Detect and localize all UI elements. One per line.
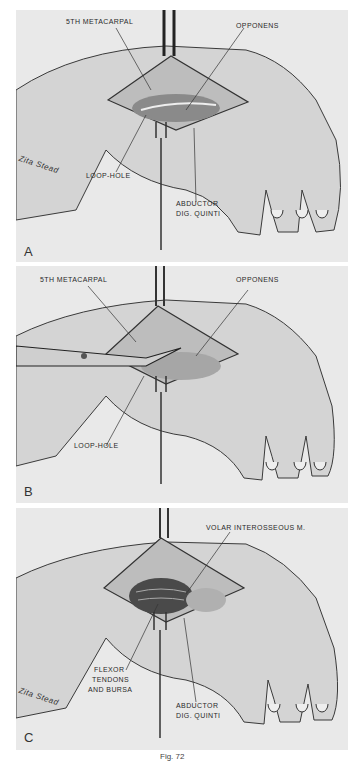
panel-letter-a: A — [24, 244, 33, 259]
label-opponens: Opponens — [236, 276, 279, 284]
hand-illustration-b — [16, 266, 348, 503]
label-abductor: Abductor — [176, 200, 218, 208]
label-opponens: Opponens — [236, 22, 279, 30]
label-5th-metacarpal: 5th Metacarpal — [40, 276, 107, 284]
figure-caption: Fig. 72 — [160, 752, 184, 761]
panel-b: 5th Metacarpal Opponens Loop-hole B — [16, 266, 348, 503]
label-and-bursa: and Bursa — [88, 686, 132, 694]
label-5th-metacarpal: 5th Metacarpal — [66, 18, 133, 26]
label-abductor: Abductor — [176, 702, 218, 710]
label-dig-quinti: Dig. Quinti — [176, 210, 220, 218]
label-loop-hole: Loop-hole — [74, 442, 118, 450]
label-loop-hole: Loop-hole — [86, 172, 130, 180]
label-tendons: Tendons — [92, 676, 129, 684]
panel-c: Volar Interosseous M. Flexor Tendons and… — [16, 508, 348, 750]
label-dig-quinti: Dig. Quinti — [176, 712, 220, 720]
panel-letter-c: C — [24, 730, 33, 745]
label-volar-interosseous: Volar Interosseous M. — [206, 524, 305, 532]
label-flexor: Flexor — [94, 666, 124, 674]
panel-a: 5th Metacarpal Opponens Loop-hole Abduct… — [16, 10, 348, 262]
panel-letter-b: B — [24, 484, 33, 499]
hand-illustration-a — [16, 10, 348, 262]
